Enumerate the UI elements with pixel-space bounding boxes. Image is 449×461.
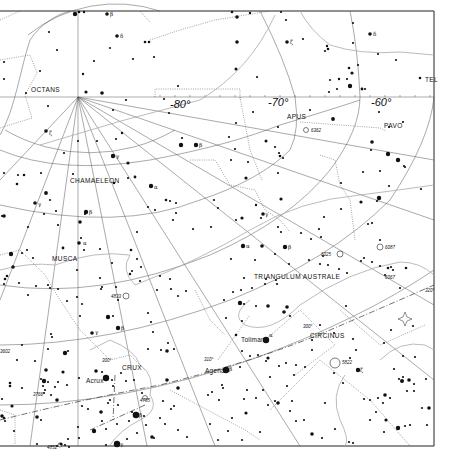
star-dot: [331, 117, 335, 121]
star-dot: [400, 379, 404, 383]
star-dot: [264, 283, 266, 285]
star-dot: [362, 171, 364, 173]
star-dot: [21, 252, 23, 254]
star-dot: [126, 161, 129, 164]
star-dot: [348, 67, 351, 70]
star-dot: [126, 438, 128, 440]
star-dot: [94, 369, 98, 373]
star-dot: [61, 370, 64, 373]
star-dot: [419, 77, 422, 80]
star-dot: [413, 390, 415, 392]
star-dot: [176, 386, 180, 390]
star-dot: [40, 419, 42, 421]
star-dot: [43, 392, 45, 394]
star-dot: [84, 213, 86, 215]
star-dot: [125, 380, 127, 382]
greek-delta-apus: δ: [373, 31, 377, 37]
star-dot: [77, 140, 79, 142]
star-dot: [289, 410, 291, 412]
star-dot: [13, 430, 15, 432]
star-dot: [387, 267, 390, 270]
star-dot: [403, 165, 405, 167]
cluster-6362-icon: [304, 128, 309, 133]
star-dot: [39, 70, 41, 72]
star-dot: [173, 405, 175, 407]
greek-beta-mus: β: [89, 209, 92, 216]
star-dot: [289, 315, 291, 317]
star-dot: [244, 411, 247, 414]
label-ngc-4852: 4852: [47, 445, 58, 450]
star-dot: [323, 216, 325, 218]
star-dot: [44, 191, 48, 195]
star-dot: [11, 265, 15, 269]
label-ngc-6087: 6087: [385, 245, 396, 250]
star-dot: [409, 424, 411, 426]
cluster-4833-icon: [123, 293, 129, 299]
star-dot: [240, 216, 243, 219]
star-dot: [266, 304, 270, 308]
star-dot: [228, 136, 230, 138]
star-dot: [175, 202, 177, 204]
star-dot: [405, 267, 408, 270]
star-dot: [240, 289, 242, 291]
star-dot: [36, 443, 38, 445]
star-dot: [375, 411, 377, 413]
star-dot: [156, 289, 158, 291]
label-gal-310: 310°: [204, 357, 214, 362]
star-dot: [382, 402, 384, 404]
star-dot: [359, 200, 362, 203]
star-dot: [173, 348, 175, 350]
star-dot: [390, 266, 392, 268]
stars-layer: [0, 11, 431, 448]
star-dot: [42, 385, 44, 387]
star-dot: [153, 437, 155, 439]
star-dot: [364, 88, 366, 90]
star-dot: [392, 269, 394, 271]
star-dot: [67, 438, 69, 440]
star-dot: [230, 159, 232, 161]
star-dot: [16, 183, 19, 186]
star-dot: [324, 50, 326, 52]
star-dot: [186, 436, 188, 438]
star-dot: [274, 400, 276, 402]
star-dot: [185, 290, 187, 292]
star-dot: [420, 188, 422, 190]
star-dot: [64, 444, 66, 446]
star-dot: [280, 231, 282, 233]
star-dot: [130, 249, 133, 252]
star-dot: [340, 208, 342, 210]
star-dot: [370, 149, 372, 151]
star-dot: [217, 207, 219, 209]
star-dot: [249, 355, 251, 357]
label-octans: OCTANS: [31, 86, 60, 93]
star-dot: [414, 356, 416, 358]
star-dot: [348, 441, 350, 443]
star-dot: [255, 397, 257, 399]
star-dot: [249, 12, 251, 14]
star-dot: [93, 60, 95, 62]
star-dot: [26, 249, 28, 251]
star-dot: [277, 126, 279, 128]
star-dot: [222, 387, 224, 389]
star-dot: [399, 287, 401, 289]
star-dot: [100, 288, 102, 290]
star-dot: [81, 405, 83, 407]
star-dot: [81, 303, 83, 305]
star-dot: [265, 140, 268, 143]
star-dot: [50, 333, 52, 335]
star-dot: [57, 224, 59, 226]
star-dot: [131, 270, 133, 272]
star-dot: [127, 177, 129, 179]
star-dot: [47, 105, 49, 107]
greek-beta-cha: β: [199, 142, 202, 149]
star-dot: [101, 420, 103, 422]
star-dot: [324, 402, 326, 404]
star-dot: [67, 350, 69, 352]
star-dot: [141, 392, 143, 394]
star-dot: [175, 212, 177, 214]
star-dot: [357, 64, 359, 66]
dec-label-60: -60°: [371, 96, 392, 108]
star-dot: [44, 389, 46, 391]
star-dot: [231, 417, 233, 419]
star-dot: [139, 280, 141, 282]
